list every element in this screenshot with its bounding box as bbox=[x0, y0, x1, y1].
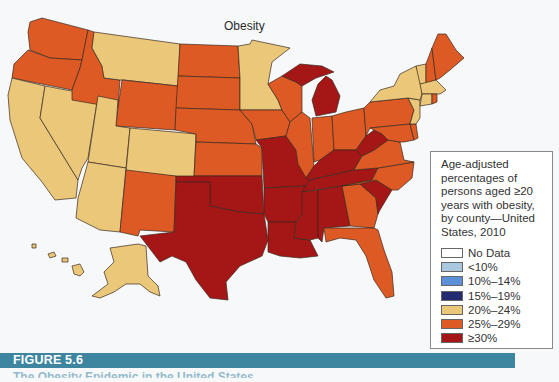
legend-label: No Data bbox=[468, 247, 510, 259]
state-AK bbox=[92, 244, 160, 298]
legend-swatch bbox=[441, 333, 463, 343]
state-HI bbox=[32, 244, 84, 276]
legend-label: 25%–29% bbox=[468, 318, 520, 330]
legend-item-10-14: 10%–14% bbox=[441, 274, 546, 288]
legend-swatch bbox=[441, 248, 463, 258]
state-NY bbox=[370, 66, 422, 102]
figure-label: FIGURE 5.6 bbox=[13, 353, 83, 368]
legend-swatch bbox=[441, 319, 463, 329]
legend-label: 15%–19% bbox=[468, 290, 520, 302]
legend-label: 10%–14% bbox=[468, 275, 520, 287]
state-RI bbox=[432, 94, 437, 104]
state-WY bbox=[116, 80, 178, 130]
legend-swatch bbox=[441, 291, 463, 301]
legend-swatch bbox=[441, 262, 463, 272]
legend-label: ≥30% bbox=[468, 332, 497, 344]
state-CT bbox=[420, 94, 432, 106]
state-FL bbox=[324, 228, 394, 298]
legend-item-ge30: ≥30% bbox=[441, 331, 546, 345]
state-ND bbox=[178, 44, 240, 78]
legend-item-no-data: No Data bbox=[441, 246, 546, 260]
state-MT bbox=[92, 32, 180, 86]
legend-item-20-24: 20%–24% bbox=[441, 303, 546, 317]
legend-swatch bbox=[441, 305, 463, 315]
state-SD bbox=[176, 76, 240, 110]
state-AZ bbox=[76, 162, 126, 232]
legend-heading: Age-adjusted percentages of persons aged… bbox=[441, 158, 546, 239]
state-MI bbox=[312, 76, 340, 116]
figure-label-bar: FIGURE 5.6 bbox=[0, 353, 515, 368]
legend-item-15-19: 15%–19% bbox=[441, 289, 546, 303]
state-KS bbox=[194, 142, 262, 176]
state-ME bbox=[432, 34, 464, 80]
legend-label: 20%–24% bbox=[468, 304, 520, 316]
legend-item-lt10: <10% bbox=[441, 260, 546, 274]
legend-swatch bbox=[441, 276, 463, 286]
legend-item-25-29: 25%–29% bbox=[441, 317, 546, 331]
legend-label: <10% bbox=[468, 261, 498, 273]
state-NM bbox=[120, 170, 176, 236]
legend: Age-adjusted percentages of persons aged… bbox=[430, 151, 553, 349]
state-CO bbox=[126, 128, 196, 178]
map-title: Obesity bbox=[224, 19, 265, 33]
